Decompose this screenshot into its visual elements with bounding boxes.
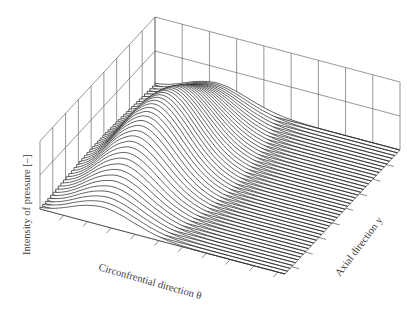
z-axis-label: Intensity of pressure [–] (21, 154, 32, 255)
y-axis-label: Axial direction y (333, 214, 385, 278)
surface-slices (40, 81, 400, 274)
x-axis-label: Circonfrential direction θ (97, 261, 202, 301)
pressure-surface-plot: Intensity of pressure [–] Circonfrential… (0, 0, 420, 323)
